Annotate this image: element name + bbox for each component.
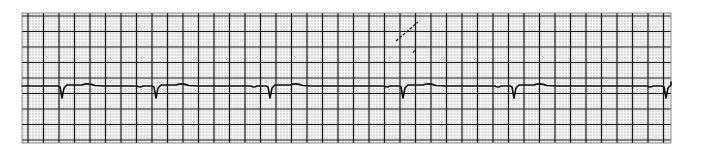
grid-paper (22, 13, 671, 143)
ecg-strip (0, 0, 707, 153)
